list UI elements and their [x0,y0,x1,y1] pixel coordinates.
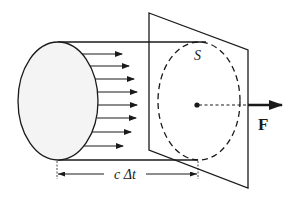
surface-plane [149,13,248,188]
force-label: F [258,115,268,134]
beam-cross-section [18,42,98,160]
center-dot [194,102,199,107]
surface-label: S [194,48,201,63]
distance-label: c Δt [114,167,137,182]
radiation-pressure-diagram: S F c Δt [0,0,294,199]
